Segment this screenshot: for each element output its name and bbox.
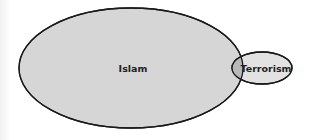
islam-label: Islam	[119, 63, 148, 74]
terrorism-label: Terrorism	[240, 63, 291, 74]
venn-diagram: Islam Terrorism	[0, 0, 313, 140]
